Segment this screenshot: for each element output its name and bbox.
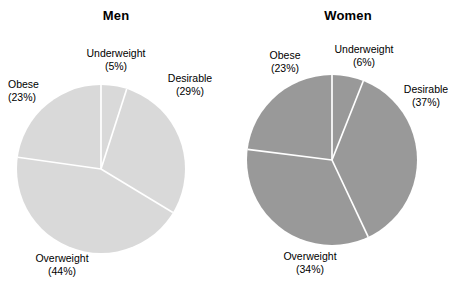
- slice-label-women-overweight-pct: (34%): [256, 263, 364, 276]
- slice-label-women-underweight-pct: (6%): [316, 56, 412, 69]
- pie-panel-men: Men Underweight (5%) Desirable (29%) Obe…: [0, 0, 232, 294]
- slice-label-men-desirable-pct: (29%): [152, 85, 228, 98]
- slice-label-women-desirable: Desirable (37%): [390, 83, 462, 108]
- slice-label-men-obese-name: Obese: [8, 78, 39, 90]
- slice-label-women-overweight-name: Overweight: [283, 250, 336, 262]
- slice-label-men-underweight-name: Underweight: [87, 47, 146, 59]
- slice-label-men-obese: Obese (23%): [8, 78, 72, 103]
- slice-label-women-obese-pct: (23%): [252, 62, 318, 75]
- slice-label-women-desirable-pct: (37%): [390, 96, 462, 109]
- slice-label-women-overweight: Overweight (34%): [256, 250, 364, 275]
- slice-label-men-obese-pct: (23%): [8, 91, 72, 104]
- slice-label-men-overweight: Overweight (44%): [14, 252, 110, 277]
- pie-chart-men: [0, 0, 232, 294]
- pie-panel-women: Women Obese (23%) Underweight (6%) Desir…: [232, 0, 464, 294]
- slice-label-women-underweight-name: Underweight: [335, 43, 394, 55]
- slice-label-women-obese: Obese (23%): [252, 49, 318, 74]
- slice-label-men-underweight-pct: (5%): [60, 60, 172, 73]
- slice-label-men-overweight-name: Overweight: [35, 252, 88, 264]
- slice-label-women-desirable-name: Desirable: [404, 83, 448, 95]
- slice-label-men-underweight: Underweight (5%): [60, 47, 172, 72]
- slice-label-men-desirable-name: Desirable: [168, 72, 212, 84]
- slice-label-women-underweight: Underweight (6%): [316, 43, 412, 68]
- slice-label-men-desirable: Desirable (29%): [152, 72, 228, 97]
- slice-label-men-overweight-pct: (44%): [14, 265, 110, 278]
- slice-label-women-obese-name: Obese: [270, 49, 301, 61]
